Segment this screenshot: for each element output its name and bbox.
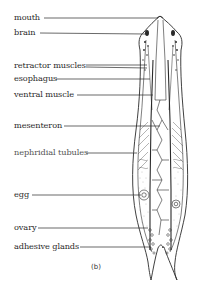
figure-caption: (b) — [91, 263, 101, 271]
body-outline — [133, 16, 188, 280]
central-structures — [148, 20, 173, 250]
label-nephridial-tubules: nephridial tubules — [14, 147, 88, 157]
label-retractor-muscles: retractor muscles — [14, 60, 86, 70]
leader-retractor-2 — [86, 67, 147, 68]
label-esophagus: esophagus — [14, 73, 57, 83]
anatomical-figure: mouth brain retractor muscles esophagus … — [0, 0, 200, 286]
adhesive-glands — [149, 229, 173, 254]
brain-lobes — [142, 30, 178, 71]
label-ovary: ovary — [14, 222, 36, 232]
label-egg: egg — [14, 189, 29, 199]
label-brain: brain — [14, 27, 35, 37]
label-ventral-muscle: ventral muscle — [14, 89, 74, 99]
label-mesenteron: mesenteron — [14, 120, 62, 130]
label-mouth: mouth — [14, 12, 40, 22]
leader-brain — [40, 33, 146, 34]
label-adhesive-glands: adhesive glands — [14, 241, 79, 251]
